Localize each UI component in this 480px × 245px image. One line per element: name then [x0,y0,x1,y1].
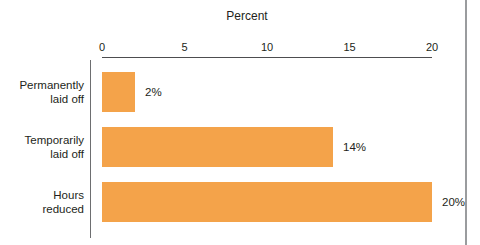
x-tick-label: 20 [426,41,438,53]
value-label: 14% [343,141,366,153]
category-label: Permanently laid off [0,78,84,106]
value-label: 20% [442,196,465,208]
x-tick-label: 5 [181,41,187,53]
bar [102,182,432,222]
value-label: 2% [145,86,162,98]
frame-right-border [465,0,467,245]
category-label: Temporarily laid off [0,133,84,161]
x-axis-line [102,57,432,58]
category-label: Hours reduced [0,188,84,216]
chart-title: Percent [226,9,267,23]
x-tick-label: 0 [99,41,105,53]
bar [102,72,135,112]
x-tick-label: 15 [343,41,355,53]
x-tick-label: 10 [261,41,273,53]
bar-chart-figure: Percent 05101520Permanently laid off2%Te… [0,0,480,245]
category-axis-line [90,60,91,238]
bar [102,127,333,167]
